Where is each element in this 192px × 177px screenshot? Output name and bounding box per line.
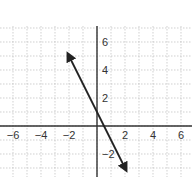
x-tick-label: 4: [150, 129, 156, 141]
x-tick-label: −2: [63, 129, 76, 141]
y-tick-label: 4: [102, 64, 108, 76]
x-tick-label: −4: [35, 129, 48, 141]
x-tick-label: −6: [7, 129, 20, 141]
y-tick-label: −2: [102, 148, 115, 160]
x-tick-label: 6: [178, 129, 184, 141]
x-tick-label: 2: [122, 129, 128, 141]
grid-lines: [0, 26, 192, 177]
y-tick-label: 2: [102, 92, 108, 104]
axes: [0, 26, 192, 177]
y-tick-label: 6: [102, 36, 108, 48]
coordinate-plane: −6−4−2246642−2: [0, 0, 192, 177]
